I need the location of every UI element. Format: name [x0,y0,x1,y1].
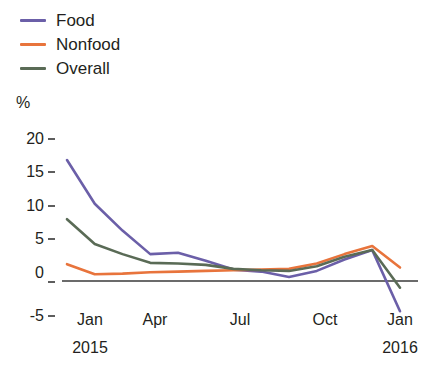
plot-area [0,0,423,368]
inflation-line-chart: Food Nonfood Overall % 20 15 10 5 0 -5 J… [0,0,423,368]
series-group [67,160,400,311]
series-line-food [67,160,400,311]
